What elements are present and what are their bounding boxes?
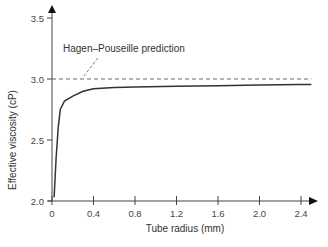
y-axis-arrow-icon xyxy=(48,5,56,13)
viscosity-chart: 2.02.53.03.5 00.40.81.21.62.02.4 Hagen–P… xyxy=(0,0,328,247)
y-axis-label: Effective viscosity (cP) xyxy=(7,90,18,190)
x-axis-label: Tube radius (mm) xyxy=(146,223,225,234)
y-tick-label: 2.5 xyxy=(31,135,44,146)
x-tick-label: 0.4 xyxy=(87,208,100,219)
y-ticks: 2.02.53.03.5 xyxy=(31,13,52,207)
x-axis-arrow-icon xyxy=(309,197,318,205)
y-tick-label: 3.0 xyxy=(31,74,44,85)
viscosity-curve xyxy=(54,85,311,198)
x-tick-label: 1.2 xyxy=(170,208,183,219)
axes xyxy=(48,5,318,205)
x-tick-label: 2.0 xyxy=(253,208,266,219)
x-tick-label: 2.4 xyxy=(294,208,307,219)
annotation-text: Hagen–Pouseille prediction xyxy=(63,43,185,54)
x-tick-label: 1.6 xyxy=(211,208,224,219)
annotation-leader xyxy=(83,58,98,77)
x-tick-label: 0 xyxy=(49,208,54,219)
y-tick-label: 2.0 xyxy=(31,196,44,207)
x-tick-label: 0.8 xyxy=(128,208,141,219)
x-ticks: 00.40.81.21.62.02.4 xyxy=(49,196,307,219)
y-tick-label: 3.5 xyxy=(31,13,44,24)
